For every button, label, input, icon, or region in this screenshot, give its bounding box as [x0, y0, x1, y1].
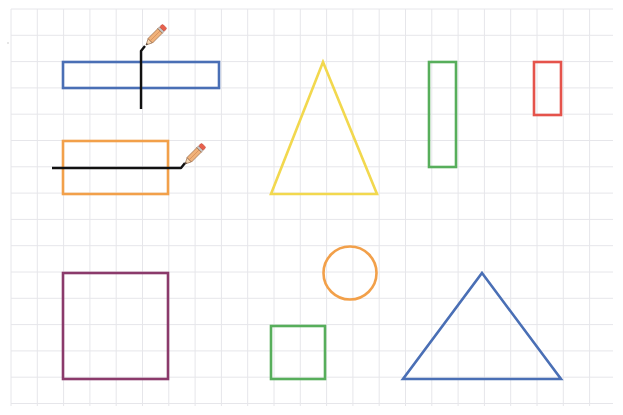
- horizontal-cut-line: [52, 163, 185, 168]
- purple-square[interactable]: [63, 273, 168, 379]
- grid: [11, 9, 613, 406]
- yellow-triangle[interactable]: [271, 62, 377, 194]
- drawing-canvas[interactable]: [0, 0, 623, 415]
- pencils-layer: [144, 24, 206, 166]
- stray-dot: [7, 42, 8, 43]
- cut-lines-layer: [52, 46, 185, 168]
- red-rectangle[interactable]: [534, 62, 561, 115]
- orange-circle[interactable]: [324, 247, 377, 300]
- green-square[interactable]: [271, 326, 325, 379]
- pencil-icon: [183, 143, 206, 166]
- shapes-layer: [63, 62, 561, 379]
